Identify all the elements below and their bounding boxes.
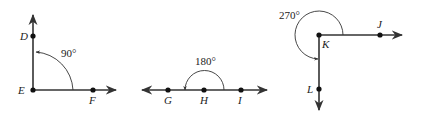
point-I (238, 87, 243, 92)
label-K: K (321, 38, 330, 50)
angle-arc-180 (185, 71, 224, 91)
point-F (90, 87, 95, 92)
label-H: H (199, 94, 209, 106)
point-K (316, 32, 321, 37)
figure-right-angle: D E F 90° (17, 15, 116, 106)
point-J (377, 32, 382, 37)
label-E: E (17, 84, 25, 96)
label-L: L (306, 83, 313, 95)
point-L (316, 86, 321, 91)
figure-straight-angle: G H I 180° (142, 55, 267, 106)
point-G (165, 87, 170, 92)
point-E (30, 87, 35, 92)
point-H (201, 87, 206, 92)
angle-label-90: 90° (61, 47, 76, 59)
label-J: J (377, 18, 383, 30)
point-D (30, 33, 35, 38)
label-F: F (88, 94, 96, 106)
figure-reflex-angle: K J L 270° (279, 9, 402, 110)
angle-diagram: D E F 90° G H I 180° K J L 270° (0, 0, 423, 114)
label-G: G (164, 94, 172, 106)
angle-label-270: 270° (279, 9, 300, 21)
angle-label-180: 180° (195, 55, 216, 67)
label-I: I (237, 94, 243, 106)
label-D: D (19, 30, 28, 42)
